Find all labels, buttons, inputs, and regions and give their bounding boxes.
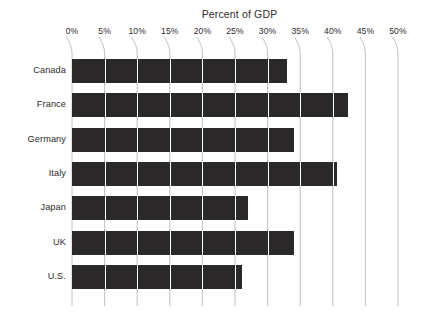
bar-gridline-seam: [235, 162, 236, 186]
bar-gridline-seam: [235, 59, 236, 83]
bar-fill: [72, 265, 242, 289]
bar-gridline-seam: [105, 162, 106, 186]
bar-gridline-seam: [268, 59, 269, 83]
bar-gridline-seam: [137, 231, 138, 255]
bar-gridline-seam: [105, 231, 106, 255]
tick-leader-line: [230, 37, 236, 54]
x-tick-label-20pct: 20%: [194, 26, 212, 36]
plot-area: [72, 54, 398, 294]
bar-italy: [72, 162, 337, 186]
x-tick-label-30pct: 30%: [259, 26, 277, 36]
tick-leader-line: [262, 37, 268, 54]
category-label-uk: UK: [4, 237, 66, 247]
bar-us: [72, 265, 242, 289]
tick-leader-line: [360, 37, 366, 54]
bar-gridline-seam: [137, 59, 138, 83]
bar-gridline-seam: [235, 231, 236, 255]
tick-leader-line: [67, 37, 73, 54]
bar-gridline-seam: [137, 265, 138, 289]
x-tick-label-50pct: 50%: [389, 26, 407, 36]
tick-leader-line: [132, 37, 138, 54]
tick-leader-line: [327, 37, 333, 54]
bar-fill: [72, 93, 348, 117]
x-tick-label-25pct: 25%: [226, 26, 244, 36]
bar-gridline-seam: [333, 162, 334, 186]
category-label-japan: Japan: [4, 202, 66, 212]
bar-gridline-seam: [137, 162, 138, 186]
y-axis-category-labels: CanadaFranceGermanyItalyJapanUKU.S.: [0, 54, 66, 294]
bar-gridline-seam: [202, 265, 203, 289]
bar-japan: [72, 196, 248, 220]
x-tick-label-5pct: 5%: [98, 26, 111, 36]
x-tick-label-0pct: 0%: [66, 26, 79, 36]
bar-gridline-seam: [268, 93, 269, 117]
bar-gridline-seam: [105, 196, 106, 220]
bar-gridline-seam: [333, 93, 334, 117]
category-label-france: France: [4, 99, 66, 109]
bar-france: [72, 93, 348, 117]
bar-gridline-seam: [137, 93, 138, 117]
chart-title: Percent of GDP: [0, 8, 427, 20]
bar-gridline-seam: [235, 196, 236, 220]
x-tick-label-40pct: 40%: [324, 26, 342, 36]
bar-gridline-seam: [170, 231, 171, 255]
bar-gridline-seam: [105, 265, 106, 289]
bar-gridline-seam: [170, 265, 171, 289]
bar-gridline-seam: [268, 162, 269, 186]
bar-gridline-seam: [170, 93, 171, 117]
x-tick-label-10pct: 10%: [128, 26, 146, 36]
x-tick-label-15pct: 15%: [161, 26, 179, 36]
bar-gridline-seam: [137, 196, 138, 220]
bar-canada: [72, 59, 287, 83]
x-tick-label-35pct: 35%: [291, 26, 309, 36]
bar-gridline-seam: [235, 128, 236, 152]
bar-gridline-seam: [105, 128, 106, 152]
bar-gridline-seam: [202, 196, 203, 220]
bar-chart: Percent of GDP 0%5%10%15%20%25%30%35%40%…: [0, 0, 427, 319]
bar-uk: [72, 231, 294, 255]
bar-gridline-seam: [105, 59, 106, 83]
category-label-germany: Germany: [4, 134, 66, 144]
bar-gridline-seam: [268, 128, 269, 152]
bar-gridline-seam: [202, 128, 203, 152]
bar-fill: [72, 196, 248, 220]
tick-leader-line: [197, 37, 203, 54]
bar-gridline-seam: [170, 59, 171, 83]
bar-gridline-seam: [170, 128, 171, 152]
category-label-italy: Italy: [4, 168, 66, 178]
tick-leader-line: [295, 37, 301, 54]
bar-gridline-seam: [202, 162, 203, 186]
bar-gridline-seam: [202, 59, 203, 83]
category-label-us: U.S.: [4, 271, 66, 281]
bar-gridline-seam: [268, 231, 269, 255]
bar-fill: [72, 162, 337, 186]
bar-gridline-seam: [170, 196, 171, 220]
bar-gridline-seam: [300, 93, 301, 117]
bar-gridline-seam: [202, 93, 203, 117]
bar-gridline-seam: [300, 162, 301, 186]
category-label-canada: Canada: [4, 65, 66, 75]
bar-gridline-seam: [170, 162, 171, 186]
x-tick-label-45pct: 45%: [357, 26, 375, 36]
tick-leader-line: [393, 37, 399, 54]
bar-germany: [72, 128, 294, 152]
bar-gridline-seam: [137, 128, 138, 152]
tick-leader-line: [99, 37, 105, 54]
tick-leader-line: [164, 37, 170, 54]
bar-gridline-seam: [235, 265, 236, 289]
bar-gridline-seam: [202, 231, 203, 255]
bar-gridline-seam: [105, 93, 106, 117]
bar-gridline-seam: [235, 93, 236, 117]
